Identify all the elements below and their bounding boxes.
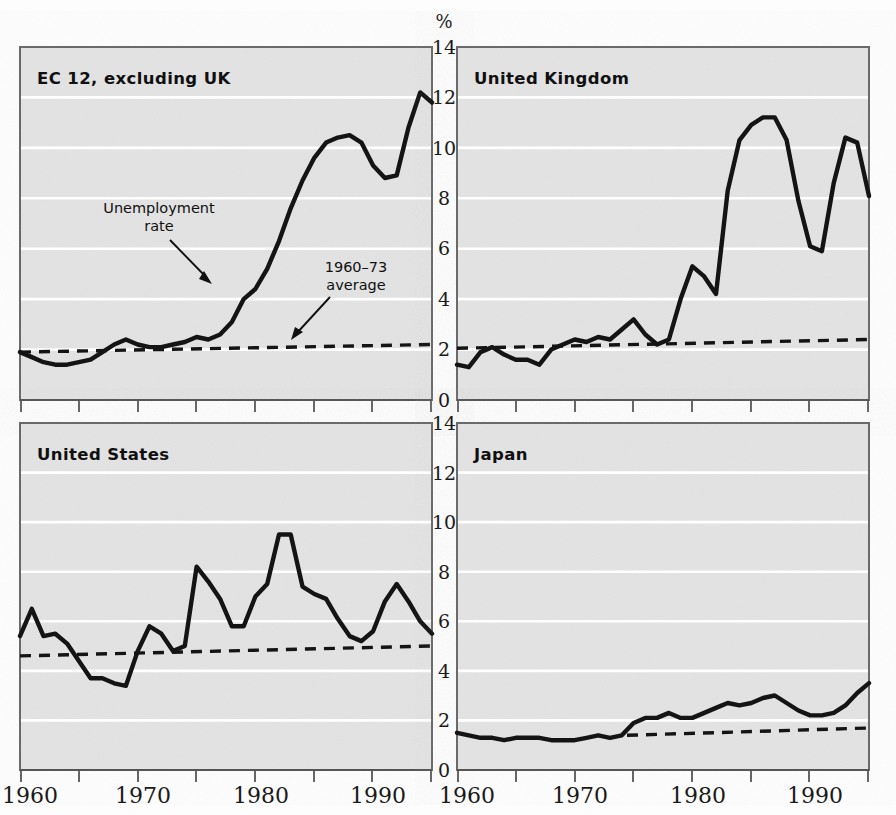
panel-jp-title: Japan [473, 445, 528, 464]
y-tick-top-2: 2 [438, 338, 450, 360]
y-tick-bottom-8: 8 [438, 561, 450, 583]
y-tick-top-12: 12 [432, 86, 456, 108]
y-axis-bottom: 14 12 10 8 6 4 2 0 [432, 412, 456, 781]
y-tick-bottom-2: 2 [438, 709, 450, 731]
panel-uk-xticks [457, 400, 869, 412]
y-tick-top-10: 10 [432, 137, 456, 159]
panel-us-xticks [20, 770, 432, 782]
y-axis-top: % 14 12 10 8 6 4 2 0 [432, 11, 456, 411]
x-tick-right-1960: 1960 [439, 783, 495, 808]
x-tick-left-1970: 1970 [115, 783, 171, 808]
x-tick-left-1990: 1990 [350, 783, 406, 808]
panel-uk-title: United Kingdom [474, 69, 629, 88]
panel-jp-grain [457, 423, 869, 770]
x-tick-left-1960: 1960 [2, 783, 58, 808]
panel-us-title: United States [37, 445, 169, 464]
annotation-unemployment-rate-line1: Unemployment [103, 200, 215, 216]
unemployment-rate-figure: EC 12, excluding UK Unemployment rate 19… [0, 0, 896, 815]
panel-ec12-xticks [20, 400, 432, 412]
y-tick-top-0: 0 [438, 389, 450, 411]
y-tick-bottom-0: 0 [438, 759, 450, 781]
x-axis-labels-left: 1960 1970 1980 1990 [2, 783, 406, 808]
annotation-unemployment-rate-line2: rate [144, 218, 174, 234]
y-tick-bottom-14: 14 [432, 412, 456, 434]
x-tick-right-1970: 1970 [552, 783, 608, 808]
x-tick-left-1980: 1980 [233, 783, 289, 808]
y-tick-top-8: 8 [438, 187, 450, 209]
y-axis-unit-label: % [435, 11, 452, 32]
panel-ec12-title: EC 12, excluding UK [37, 69, 231, 88]
y-tick-bottom-6: 6 [438, 610, 450, 632]
y-tick-top-6: 6 [438, 237, 450, 259]
panel-ec12: EC 12, excluding UK Unemployment rate 19… [20, 47, 432, 412]
y-tick-bottom-10: 10 [432, 511, 456, 533]
y-tick-top-4: 4 [438, 288, 450, 310]
panel-jp-xticks [457, 770, 869, 782]
x-axis-labels-right: 1960 1970 1980 1990 [439, 783, 843, 808]
chart-svg: EC 12, excluding UK Unemployment rate 19… [0, 0, 896, 815]
y-tick-bottom-12: 12 [432, 462, 456, 484]
x-tick-right-1990: 1990 [787, 783, 843, 808]
panel-us: United States [20, 423, 432, 782]
y-tick-top-14: 14 [432, 36, 456, 58]
y-tick-bottom-4: 4 [438, 660, 450, 682]
panel-jp: Japan [457, 423, 869, 782]
panel-us-grain [20, 423, 432, 770]
x-tick-right-1980: 1980 [670, 783, 726, 808]
panel-uk: United Kingdom [457, 47, 869, 412]
annotation-average-line2: average [326, 277, 385, 293]
annotation-average-line1: 1960–73 [325, 259, 388, 275]
